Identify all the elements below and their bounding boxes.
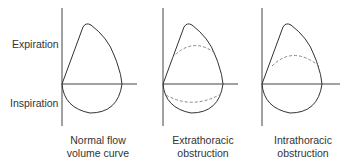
caption-line: Intrathoracic <box>258 134 347 147</box>
caption-extrathoracic: Extrathoracic obstruction <box>158 134 248 160</box>
dashed-expiratory-plateau <box>172 46 215 58</box>
dashed-expiratory-plateau <box>272 56 319 67</box>
panel-intrathoracic <box>262 8 340 126</box>
caption-line: Extrathoracic <box>158 134 248 147</box>
expiratory-curve <box>163 24 223 84</box>
expiratory-curve <box>262 24 322 84</box>
caption-line: volume curve <box>53 147 143 160</box>
panel-normal <box>62 8 137 126</box>
caption-intrathoracic: Intrathoracic obstruction <box>258 134 347 160</box>
expiratory-curve <box>62 24 122 84</box>
caption-line: obstruction <box>258 147 347 160</box>
caption-normal: Normal flow volume curve <box>53 134 143 160</box>
dashed-inspiratory-plateau <box>166 94 221 102</box>
inspiratory-curve <box>62 84 122 113</box>
caption-line: obstruction <box>158 147 248 160</box>
caption-line: Normal flow <box>53 134 143 147</box>
inspiratory-curve <box>262 84 322 113</box>
flow-volume-diagram: Expiration Inspiration Normal f <box>0 0 347 166</box>
panel-extrathoracic <box>163 8 238 126</box>
